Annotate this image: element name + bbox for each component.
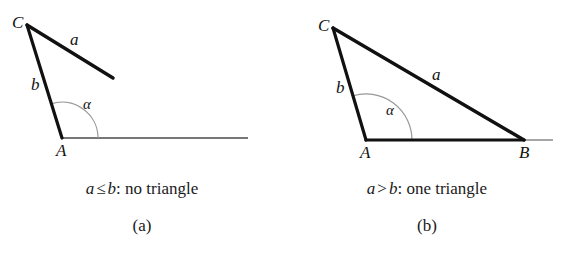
diagram-b-drawing: C A B a b α bbox=[285, 0, 569, 175]
side-label-a: a bbox=[70, 31, 79, 48]
diagram-a-svg bbox=[0, 0, 284, 175]
caption-a: a≤b: no triangle bbox=[0, 180, 284, 199]
diagram-a-drawing: C A a b α bbox=[0, 0, 284, 175]
angle-label-alpha: α bbox=[386, 103, 394, 118]
caption-a-relation: ≤ bbox=[94, 179, 107, 198]
triangle-cases-figure: C A a b α a≤b: no triangle (a) bbox=[0, 0, 569, 254]
side-label-b: b bbox=[336, 79, 345, 96]
panel-no-triangle: C A a b α a≤b: no triangle (a) bbox=[0, 0, 284, 254]
vertex-label-a: A bbox=[56, 142, 66, 159]
caption-a-right-term: b bbox=[108, 179, 117, 198]
vertex-label-a: A bbox=[360, 144, 370, 161]
panel-tag-a: (a) bbox=[0, 216, 284, 236]
panel-tag-b: (b) bbox=[285, 216, 569, 236]
caption-b-separator: : bbox=[397, 179, 402, 198]
caption-b: a>b: one triangle bbox=[285, 180, 569, 199]
caption-b-relation: > bbox=[375, 179, 389, 198]
panel-one-triangle: C A B a b α a>b: one triangle (b) bbox=[285, 0, 569, 254]
angle-label-alpha: α bbox=[83, 97, 91, 112]
caption-a-result: no triangle bbox=[125, 179, 198, 198]
caption-a-left-term: a bbox=[86, 179, 95, 198]
caption-a-separator: : bbox=[116, 179, 121, 198]
vertex-label-c: C bbox=[318, 17, 329, 34]
side-label-a: a bbox=[432, 66, 441, 83]
vertex-label-b: B bbox=[519, 144, 529, 161]
side-label-b: b bbox=[31, 76, 40, 93]
vertex-label-c: C bbox=[12, 14, 23, 31]
caption-b-result: one triangle bbox=[406, 179, 487, 198]
angle-arc-alpha bbox=[353, 94, 413, 140]
